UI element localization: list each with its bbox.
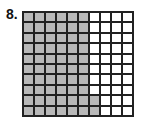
shaded-cell	[23, 22, 34, 32]
shaded-cell	[67, 74, 78, 84]
shaded-cell	[45, 43, 56, 53]
shaded-cell	[78, 106, 89, 116]
unshaded-cell	[111, 74, 122, 84]
shaded-cell	[45, 74, 56, 84]
unshaded-cell	[100, 43, 111, 53]
unshaded-cell	[100, 85, 111, 95]
shaded-cell	[78, 12, 89, 22]
shaded-cell	[34, 64, 45, 74]
shaded-cell	[23, 12, 34, 22]
unshaded-cell	[100, 22, 111, 32]
shaded-cell	[67, 22, 78, 32]
unshaded-cell	[111, 22, 122, 32]
shaded-cell	[67, 95, 78, 105]
unshaded-cell	[111, 85, 122, 95]
unshaded-cell	[89, 74, 100, 84]
unshaded-cell	[122, 95, 133, 105]
shaded-cell	[78, 64, 89, 74]
shaded-cell	[56, 64, 67, 74]
shaded-cell	[45, 95, 56, 105]
shaded-cell	[34, 54, 45, 64]
shaded-cell	[45, 85, 56, 95]
shaded-cell	[67, 85, 78, 95]
unshaded-cell	[122, 74, 133, 84]
unshaded-cell	[111, 43, 122, 53]
shaded-cell	[67, 12, 78, 22]
shaded-cell	[34, 33, 45, 43]
shaded-cell	[23, 95, 34, 105]
shaded-cell	[56, 22, 67, 32]
unshaded-cell	[111, 12, 122, 22]
unshaded-cell	[89, 64, 100, 74]
shaded-cell	[56, 85, 67, 95]
unshaded-cell	[100, 106, 111, 116]
unshaded-cell	[100, 54, 111, 64]
unshaded-cell	[89, 12, 100, 22]
shaded-cell	[34, 85, 45, 95]
shaded-cell	[23, 106, 34, 116]
unshaded-cell	[111, 33, 122, 43]
shaded-cell	[34, 22, 45, 32]
shaded-cell	[23, 33, 34, 43]
shaded-cell	[23, 43, 34, 53]
shaded-cell	[45, 106, 56, 116]
shaded-cell	[67, 64, 78, 74]
unshaded-cell	[100, 33, 111, 43]
shaded-cell	[78, 54, 89, 64]
unshaded-cell	[89, 85, 100, 95]
shaded-cell	[56, 54, 67, 64]
unshaded-cell	[100, 64, 111, 74]
unshaded-cell	[111, 106, 122, 116]
shaded-cell	[56, 33, 67, 43]
shaded-cell	[23, 74, 34, 84]
shaded-cell	[34, 12, 45, 22]
shaded-cell	[67, 43, 78, 53]
unshaded-cell	[122, 85, 133, 95]
shaded-cell	[56, 74, 67, 84]
unshaded-cell	[89, 43, 100, 53]
unshaded-cell	[122, 54, 133, 64]
shaded-cell	[67, 106, 78, 116]
shaded-cell	[45, 64, 56, 74]
unshaded-cell	[100, 74, 111, 84]
unshaded-cell	[100, 12, 111, 22]
shaded-cell	[78, 85, 89, 95]
shaded-cell	[56, 106, 67, 116]
unshaded-cell	[122, 43, 133, 53]
shaded-cell	[78, 22, 89, 32]
unshaded-cell	[100, 95, 111, 105]
unshaded-cell	[111, 54, 122, 64]
shaded-cell	[78, 95, 89, 105]
unshaded-cell	[122, 33, 133, 43]
shaded-cell	[45, 12, 56, 22]
shaded-cell	[34, 95, 45, 105]
shaded-cell	[34, 106, 45, 116]
shaded-cell	[78, 33, 89, 43]
unshaded-cell	[89, 54, 100, 64]
shaded-cell	[78, 43, 89, 53]
hundred-grid	[22, 11, 134, 117]
unshaded-cell	[111, 64, 122, 74]
unshaded-cell	[122, 64, 133, 74]
unshaded-cell	[122, 12, 133, 22]
shaded-cell	[89, 106, 100, 116]
shaded-cell	[67, 33, 78, 43]
unshaded-cell	[122, 106, 133, 116]
shaded-cell	[34, 43, 45, 53]
shaded-cell	[23, 85, 34, 95]
shaded-cell	[67, 54, 78, 64]
shaded-cell	[23, 54, 34, 64]
unshaded-cell	[89, 33, 100, 43]
shaded-cell	[56, 43, 67, 53]
unshaded-cell	[89, 22, 100, 32]
unshaded-cell	[122, 22, 133, 32]
shaded-cell	[89, 95, 100, 105]
problem-number: 8.	[6, 6, 18, 22]
shaded-cell	[45, 33, 56, 43]
unshaded-cell	[111, 95, 122, 105]
shaded-cell	[45, 54, 56, 64]
shaded-cell	[23, 64, 34, 74]
shaded-cell	[56, 12, 67, 22]
shaded-cell	[45, 22, 56, 32]
shaded-cell	[56, 95, 67, 105]
